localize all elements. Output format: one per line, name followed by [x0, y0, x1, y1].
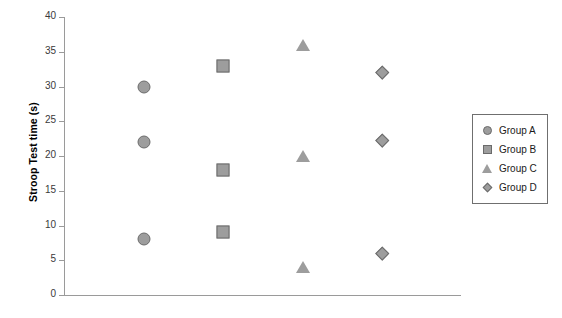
y-tick-mark — [59, 17, 64, 18]
y-tick-label: 5 — [8, 254, 56, 264]
y-tick-label: 30 — [8, 81, 56, 91]
y-tick-mark — [59, 226, 64, 227]
y-tick-label: 0 — [8, 289, 56, 299]
legend-item-group-c[interactable]: Group C — [479, 159, 542, 178]
y-tick-mark — [59, 121, 64, 122]
data-point-group-d — [375, 134, 388, 147]
legend-label: Group A — [499, 125, 536, 136]
triangle-icon — [482, 164, 492, 173]
data-point-group-b — [217, 59, 230, 72]
y-tick-mark — [59, 191, 64, 192]
data-point-group-d — [375, 247, 388, 260]
y-tick-label: 20 — [8, 150, 56, 160]
legend-swatch — [479, 124, 495, 138]
y-tick-mark — [59, 87, 64, 88]
plot-area — [65, 17, 461, 295]
y-tick-label: 25 — [8, 115, 56, 125]
y-tick-label: 15 — [8, 185, 56, 195]
data-point-group-a — [138, 136, 151, 149]
legend-item-group-b[interactable]: Group B — [479, 140, 542, 159]
legend-swatch — [479, 162, 495, 176]
legend-label: Group B — [499, 144, 536, 155]
data-point-group-d — [375, 66, 388, 79]
data-point-group-c — [296, 150, 310, 162]
diamond-icon — [375, 66, 388, 79]
y-tick-mark — [59, 52, 64, 53]
legend: Group AGroup BGroup CGroup D — [472, 114, 548, 204]
y-tick-label: 10 — [8, 220, 56, 230]
triangle-icon — [296, 261, 310, 273]
legend-label: Group D — [499, 182, 537, 193]
diamond-icon — [482, 183, 492, 193]
data-point-group-b — [217, 226, 230, 239]
y-tick-mark — [59, 295, 64, 296]
x-axis-line — [64, 295, 461, 296]
circle-icon — [483, 126, 492, 135]
scatter-chart: Stroop Test time (s) 0510152025303540 Gr… — [0, 0, 562, 318]
y-tick-mark — [59, 260, 64, 261]
legend-swatch — [479, 181, 495, 195]
legend-item-group-a[interactable]: Group A — [479, 121, 542, 140]
triangle-icon — [296, 39, 310, 51]
y-tick-mark — [59, 156, 64, 157]
triangle-icon — [296, 150, 310, 162]
data-point-group-c — [296, 39, 310, 51]
diamond-icon — [375, 247, 388, 260]
y-tick-label: 35 — [8, 46, 56, 56]
square-icon — [483, 145, 492, 154]
legend-swatch — [479, 143, 495, 157]
diamond-icon — [375, 133, 388, 146]
data-point-group-b — [217, 163, 230, 176]
data-point-group-c — [296, 261, 310, 273]
data-point-group-a — [138, 233, 151, 246]
legend-item-group-d[interactable]: Group D — [479, 178, 542, 197]
data-point-group-a — [138, 80, 151, 93]
legend-label: Group C — [499, 163, 537, 174]
y-tick-label: 40 — [8, 11, 56, 21]
